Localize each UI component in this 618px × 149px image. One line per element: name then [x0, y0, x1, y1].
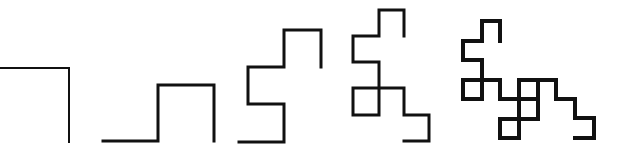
dragon-curve-iteration-2 [103, 85, 214, 141]
dragon-curve-iteration-1 [0, 68, 69, 142]
dragon-curve-iteration-4 [353, 10, 429, 141]
dragon-curve-figure [0, 0, 618, 149]
figure-canvas [0, 0, 618, 149]
dragon-curve-iteration-3 [239, 30, 321, 142]
dragon-curve-iteration-5 [463, 21, 594, 138]
